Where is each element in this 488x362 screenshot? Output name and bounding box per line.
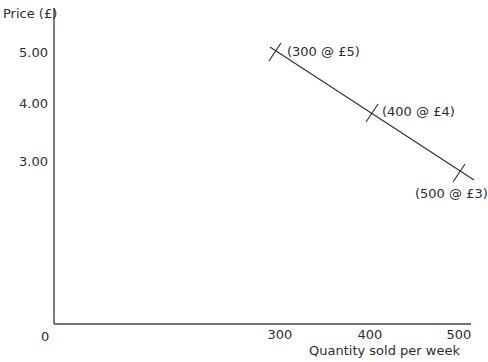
point-marker-400 — [366, 104, 378, 122]
point-marker-300 — [269, 43, 281, 61]
y-axis-label: Price (£) — [3, 6, 57, 21]
y-tick-4: 4.00 — [0, 96, 48, 111]
point-label-300: (300 @ £5) — [287, 44, 360, 59]
x-axis-label: Quantity sold per week — [309, 343, 460, 358]
x-tick-500: 500 — [439, 327, 479, 342]
y-tick-5: 5.00 — [0, 45, 48, 60]
point-label-400: (400 @ £4) — [382, 104, 455, 119]
x-tick-300: 300 — [260, 327, 300, 342]
y-tick-3: 3.00 — [0, 154, 48, 169]
point-label-500: (500 @ £3) — [415, 186, 488, 201]
x-tick-400: 400 — [350, 327, 390, 342]
origin-label: 0 — [41, 329, 49, 344]
